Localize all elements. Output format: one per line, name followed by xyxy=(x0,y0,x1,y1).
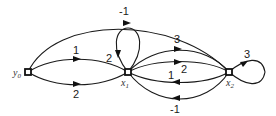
node-x1 xyxy=(125,69,131,75)
edge-label-x2-self: 3 xyxy=(244,48,250,60)
arrow-icon xyxy=(123,20,131,26)
arrow-icon xyxy=(73,81,81,87)
signal-flow-graph: -1 1 2 2 3 2 1 -1 3 y0 x1 x2 xyxy=(0,0,276,116)
edge-label-y0-x2: -1 xyxy=(119,5,129,17)
edge-label-y0-x1-upper: 1 xyxy=(73,44,79,56)
edge-label-x2-x1-neg1: -1 xyxy=(170,103,180,115)
edge-label-x1-x2-2: 2 xyxy=(181,63,187,75)
node-label-y0: y0 xyxy=(12,67,21,80)
edge-label-x1-self: 2 xyxy=(106,52,112,64)
node-label-x1: x1 xyxy=(120,77,129,90)
arrow-icon xyxy=(174,46,182,52)
edge-label-x2-x1-1: 1 xyxy=(168,69,174,81)
edge-y0-x1-lower xyxy=(28,72,128,85)
node-x2 xyxy=(226,69,232,75)
node-y0 xyxy=(25,69,31,75)
node-label-x2: x2 xyxy=(225,77,234,90)
edge-x2-x1-neg1 xyxy=(128,72,229,99)
edge-label-x1-x2-3: 3 xyxy=(174,33,180,45)
edge-x2-self xyxy=(229,60,265,83)
arrow-icon xyxy=(73,56,81,62)
edge-y0-x1-upper xyxy=(28,59,128,72)
arrow-icon xyxy=(115,50,121,58)
arrow-icon xyxy=(172,95,180,101)
edge-y0-x2 xyxy=(28,29,229,72)
edge-label-y0-x1-lower: 2 xyxy=(73,88,79,100)
